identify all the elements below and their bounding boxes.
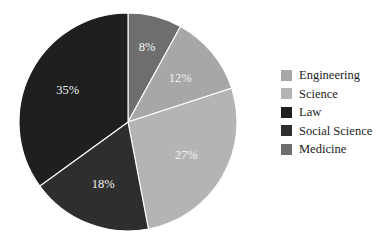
legend-item-label: Science [299, 88, 338, 101]
legend-color-swatch [281, 144, 292, 155]
legend-item[interactable]: Law [281, 103, 389, 122]
pie-slice-value-label: 35% [56, 83, 79, 97]
pie-slice-value-label: 8% [139, 40, 156, 54]
legend-color-swatch [281, 70, 292, 81]
legend-item-label: Law [299, 106, 321, 119]
pie-slices-group [19, 13, 237, 231]
legend-color-swatch [281, 88, 292, 99]
legend-item[interactable]: Science [281, 85, 389, 104]
legend-item-label: Engineering [299, 69, 360, 82]
legend-item[interactable]: Medicine [281, 140, 389, 159]
pie-chart-plot-area: 8%12%27%18%35% [0, 0, 262, 242]
legend-color-swatch [281, 107, 292, 118]
legend-item[interactable]: Social Science [281, 122, 389, 141]
legend-item[interactable]: Engineering [281, 66, 389, 85]
pie-slice-value-label: 18% [92, 177, 115, 191]
pie-chart-svg: 8%12%27%18%35% [0, 0, 262, 242]
legend-item-label: Medicine [299, 143, 346, 156]
legend-item-label: Social Science [299, 125, 372, 138]
pie-slice-value-label: 27% [175, 148, 198, 162]
pie-chart-figure: 8%12%27%18%35% EngineeringScienceLawSoci… [0, 0, 390, 242]
pie-slice-value-label: 12% [169, 71, 192, 85]
chart-legend: EngineeringScienceLawSocial ScienceMedic… [281, 66, 389, 159]
legend-color-swatch [281, 125, 292, 136]
